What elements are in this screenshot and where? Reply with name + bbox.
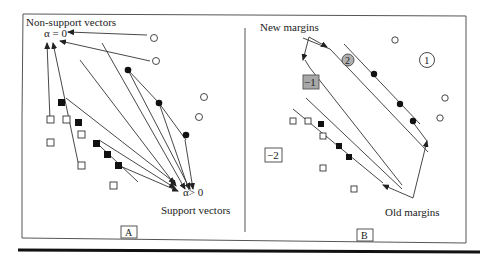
region-2-label: 2	[345, 55, 350, 66]
old-margins-label: Old margins	[385, 206, 440, 218]
region-neg1-label: −1	[304, 76, 316, 88]
support-vectors-label: Support vectors	[161, 204, 230, 216]
svm-figure: Non-support vectors α = 0	[0, 0, 483, 258]
alpha-positive-label: α> 0	[183, 186, 204, 198]
region-1-label: 1	[424, 54, 430, 66]
alpha-zero-label: α = 0	[44, 27, 67, 39]
panel-a: Non-support vectors α = 0	[26, 16, 230, 238]
panel-b-label: B	[361, 230, 368, 241]
non-support-vectors-label: Non-support vectors	[26, 16, 116, 28]
bottom-rule	[18, 250, 480, 252]
panel-b: New margins 2 1 −1 −2	[260, 21, 448, 241]
region-neg2-label: −2	[267, 149, 279, 161]
new-margins-label: New margins	[260, 21, 319, 33]
panel-a-label: A	[125, 227, 133, 238]
